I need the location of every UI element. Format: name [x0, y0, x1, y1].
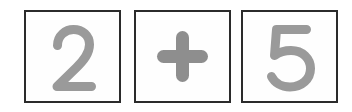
plus-sign-icon [136, 12, 229, 101]
digit-five-glyph [243, 12, 336, 101]
math-tile-operand-left[interactable]: 2 [24, 10, 121, 103]
math-tile-operator[interactable]: + [134, 10, 231, 103]
math-tile-operand-right[interactable]: 5 [241, 10, 338, 103]
math-tiles-canvas: 2 + 5 [0, 0, 352, 112]
digit-two-glyph [26, 12, 119, 101]
